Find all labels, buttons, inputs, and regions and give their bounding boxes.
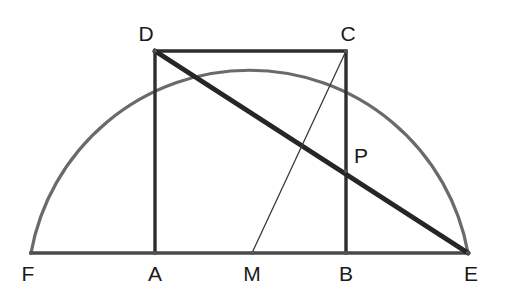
vertex-dot-b	[344, 251, 348, 255]
segment-layer	[31, 51, 468, 253]
vertex-dot-d	[153, 49, 157, 53]
vertex-dot-a	[153, 251, 157, 255]
vertex-dot-e	[466, 251, 470, 255]
vertex-label-f: F	[22, 262, 35, 285]
vertex-label-a: A	[148, 262, 162, 285]
semicircle-arc	[31, 70, 468, 253]
vertex-label-c: C	[340, 22, 355, 45]
vertex-label-d: D	[138, 22, 153, 45]
vertex-dot-p	[344, 169, 348, 173]
vertex-dot-layer	[29, 49, 470, 255]
vertex-label-b: B	[339, 262, 353, 285]
vertex-label-layer: FAMBEDCP	[22, 22, 478, 285]
vertex-label-m: M	[243, 262, 261, 285]
vertex-dot-m	[250, 251, 254, 255]
vertex-label-p: P	[354, 144, 368, 167]
geometry-canvas: FAMBEDCP	[0, 0, 509, 296]
thin-line-M-to-C	[252, 51, 346, 253]
geometry-figure: FAMBEDCP	[0, 0, 509, 296]
arc-layer	[31, 70, 468, 253]
vertex-label-e: E	[464, 262, 478, 285]
vertex-dot-f	[29, 251, 33, 255]
vertex-dot-c	[344, 49, 348, 53]
